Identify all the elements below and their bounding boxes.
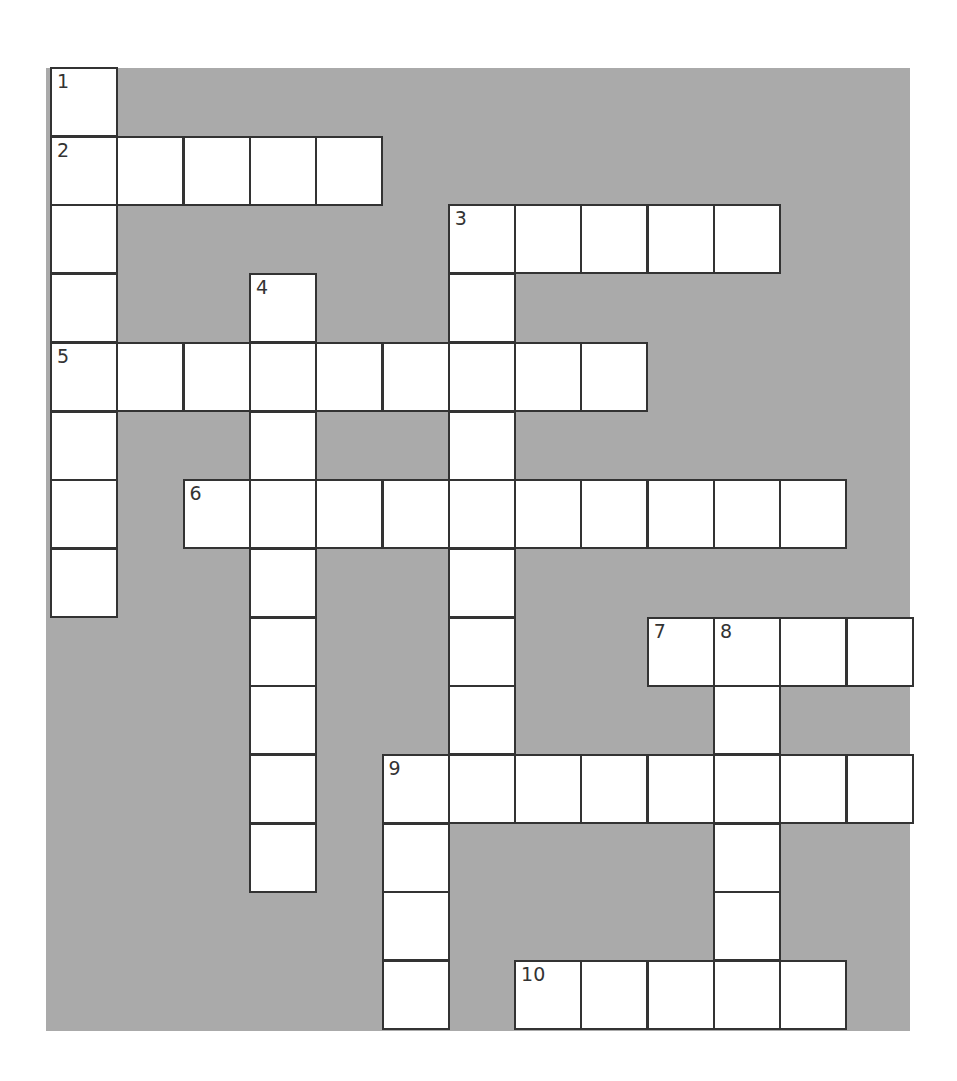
crossword-cell[interactable] [448, 411, 516, 481]
crossword-cell[interactable] [249, 685, 317, 755]
crossword-cell[interactable] [116, 136, 184, 206]
crossword-cell[interactable] [382, 960, 450, 1030]
crossword-cell[interactable] [846, 754, 914, 824]
crossword-cell[interactable] [448, 548, 516, 618]
crossword-cell[interactable] [647, 204, 715, 274]
crossword-board: 12534678910 [46, 68, 910, 1031]
crossword-cell[interactable] [50, 273, 118, 343]
crossword-cell[interactable] [249, 342, 317, 412]
crossword-cell[interactable]: 1 [50, 67, 118, 137]
crossword-cell[interactable]: 7 [647, 617, 715, 687]
crossword-cell[interactable] [382, 342, 450, 412]
crossword-cell[interactable] [116, 342, 184, 412]
crossword-cell[interactable] [50, 204, 118, 274]
crossword-cell[interactable] [779, 617, 847, 687]
crossword-cell[interactable] [713, 754, 781, 824]
crossword-cell[interactable] [713, 479, 781, 549]
crossword-cell[interactable] [382, 823, 450, 893]
crossword-cell[interactable] [382, 479, 450, 549]
crossword-cell[interactable] [713, 823, 781, 893]
crossword-cell[interactable]: 9 [382, 754, 450, 824]
clue-number: 5 [57, 347, 69, 366]
crossword-cell[interactable] [382, 891, 450, 961]
crossword-cell[interactable]: 3 [448, 204, 516, 274]
crossword-cell[interactable] [249, 136, 317, 206]
clue-number: 6 [190, 484, 202, 503]
crossword-cell[interactable] [448, 479, 516, 549]
crossword-cell[interactable] [514, 754, 582, 824]
crossword-cell[interactable] [580, 204, 648, 274]
crossword-cell[interactable] [448, 342, 516, 412]
clue-number: 3 [455, 209, 467, 228]
crossword-cell[interactable] [580, 754, 648, 824]
crossword-cell[interactable] [846, 617, 914, 687]
crossword-cell[interactable] [448, 273, 516, 343]
crossword-cell[interactable] [315, 136, 383, 206]
crossword-cell[interactable]: 10 [514, 960, 582, 1030]
crossword-cell[interactable] [249, 754, 317, 824]
crossword-cell[interactable] [779, 960, 847, 1030]
clue-number: 8 [720, 622, 732, 641]
crossword-cell[interactable]: 5 [50, 342, 118, 412]
crossword-cell[interactable] [50, 548, 118, 618]
crossword-cell[interactable] [713, 685, 781, 755]
crossword-cell[interactable] [514, 479, 582, 549]
crossword-cell[interactable]: 2 [50, 136, 118, 206]
crossword-cell[interactable] [249, 548, 317, 618]
crossword-cell[interactable] [647, 754, 715, 824]
clue-number: 2 [57, 141, 69, 160]
crossword-cell[interactable] [713, 891, 781, 961]
clue-number: 4 [256, 278, 268, 297]
clue-number: 7 [654, 622, 666, 641]
clue-number: 9 [389, 759, 401, 778]
crossword-cell[interactable] [183, 342, 251, 412]
crossword-cell[interactable] [647, 960, 715, 1030]
crossword-cell[interactable] [580, 479, 648, 549]
crossword-cell[interactable] [183, 136, 251, 206]
crossword-cell[interactable]: 6 [183, 479, 251, 549]
crossword-cell[interactable] [647, 479, 715, 549]
crossword-cell[interactable] [249, 823, 317, 893]
crossword-cell[interactable] [779, 754, 847, 824]
crossword-cell[interactable] [713, 960, 781, 1030]
crossword-cell[interactable] [315, 342, 383, 412]
crossword-cell[interactable] [779, 479, 847, 549]
crossword-cell[interactable] [514, 204, 582, 274]
crossword-cell[interactable] [448, 685, 516, 755]
crossword-cell[interactable] [713, 204, 781, 274]
clue-number: 1 [57, 72, 69, 91]
crossword-cell[interactable]: 8 [713, 617, 781, 687]
crossword-cell[interactable] [448, 754, 516, 824]
clue-number: 10 [521, 965, 545, 984]
crossword-cell[interactable] [315, 479, 383, 549]
crossword-cell[interactable] [249, 617, 317, 687]
crossword-cell[interactable] [580, 342, 648, 412]
crossword-cell[interactable] [448, 617, 516, 687]
crossword-cell[interactable] [50, 479, 118, 549]
crossword-cell[interactable] [514, 342, 582, 412]
crossword-cell[interactable] [50, 411, 118, 481]
crossword-cell[interactable] [249, 479, 317, 549]
crossword-cell[interactable]: 4 [249, 273, 317, 343]
crossword-cell[interactable] [580, 960, 648, 1030]
crossword-cell[interactable] [249, 411, 317, 481]
